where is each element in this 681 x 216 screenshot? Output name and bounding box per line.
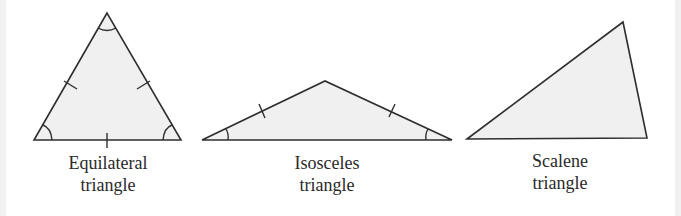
equilateral-label-line2: triangle (28, 174, 188, 196)
isosceles-label-line2: triangle (247, 174, 407, 196)
isosceles-label: Isosceles triangle (247, 152, 407, 196)
scalene-label-line1: Scalene (480, 150, 640, 172)
equilateral-label: Equilateral triangle (28, 152, 188, 196)
scalene-label-line2: triangle (480, 172, 640, 194)
equilateral-triangle (34, 13, 181, 148)
scalene-label: Scalene triangle (480, 150, 640, 194)
scalene-triangle (467, 22, 647, 139)
isosceles-triangle (202, 81, 452, 140)
isosceles-label-line1: Isosceles (247, 152, 407, 174)
equilateral-label-line1: Equilateral (28, 152, 188, 174)
